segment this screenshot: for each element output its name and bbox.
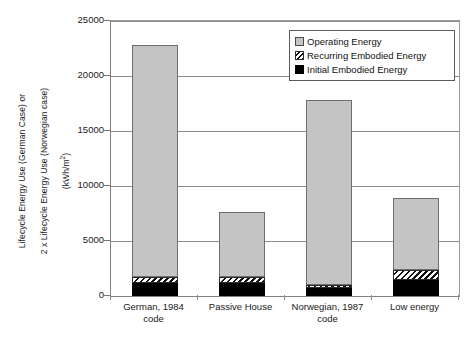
y-axis-tick-label: 10000 — [42, 179, 104, 190]
operating-swatch-icon — [295, 37, 304, 46]
bar-segment-initial-embodied — [393, 280, 439, 296]
legend-item-operating-energy: Operating Energy — [295, 34, 450, 48]
bar-segment-recurring-embodied — [132, 277, 178, 283]
y-axis-title-line-2: 2 x Lifecycle Energy Use (Norwegian case… — [39, 88, 49, 255]
bar-stack — [306, 100, 352, 296]
recurring-swatch-icon — [295, 51, 304, 60]
bar-segment-operating — [132, 45, 178, 277]
y-axis-tick-label: 0 — [42, 289, 104, 300]
y-axis-title-line-1: Lifecycle Energy Use (German Case) or — [17, 94, 27, 248]
y-axis-unit-exponent: 2 — [59, 156, 66, 160]
x-axis-tick-mark — [197, 295, 198, 300]
bar-stack — [219, 212, 265, 296]
bar-segment-operating — [219, 212, 265, 276]
legend-item-initial-embodied-energy: Initial Embodied Energy — [295, 62, 450, 76]
y-axis-tick-label: 20000 — [42, 69, 104, 80]
bar-segment-initial-embodied — [306, 288, 352, 296]
bar-segment-recurring-embodied — [393, 270, 439, 280]
bar-segment-initial-embodied — [132, 283, 178, 296]
bar-stack — [393, 198, 439, 296]
x-axis-category-label: Passive House — [197, 301, 284, 313]
bar-segment-initial-embodied — [219, 283, 265, 296]
legend-item-recurring-embodied-energy: Recurring Embodied Energy — [295, 48, 450, 62]
bar-segment-operating — [393, 198, 439, 270]
x-axis-tick-mark — [284, 295, 285, 300]
x-axis-category-label: German, 1984 code — [110, 301, 197, 324]
legend-label-operating: Operating Energy — [307, 36, 381, 47]
legend-label-recurring: Recurring Embodied Energy — [307, 50, 426, 61]
gridline — [111, 21, 459, 22]
bar-segment-operating — [306, 100, 352, 285]
y-axis-tick-label: 15000 — [42, 124, 104, 135]
x-axis-tick-mark — [371, 295, 372, 300]
chart-legend: Operating Energy Recurring Embodied Ener… — [289, 30, 455, 81]
x-axis-tick-mark — [110, 295, 111, 300]
x-axis-category-label: Norwegian, 1987 code — [284, 301, 371, 324]
chart-figure: Lifecycle Energy Use (German Case) or 2 … — [0, 0, 473, 342]
bar-segment-recurring-embodied — [219, 277, 265, 284]
y-axis-tick-label: 25000 — [42, 14, 104, 25]
x-axis-category-label: Low energy — [371, 301, 458, 313]
bar-stack — [132, 45, 178, 296]
x-axis-tick-mark — [458, 295, 459, 300]
bar-segment-recurring-embodied — [306, 285, 352, 288]
legend-label-initial: Initial Embodied Energy — [307, 64, 407, 75]
y-axis-tick-label: 5000 — [42, 234, 104, 245]
y-axis-unit-suffix: ) — [61, 153, 71, 156]
initial-swatch-icon — [295, 65, 304, 74]
